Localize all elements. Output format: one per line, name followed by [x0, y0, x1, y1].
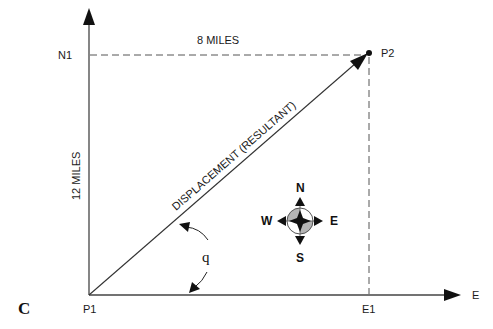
- compass-south-arrow-icon: [295, 236, 305, 245]
- east-axis: E: [89, 289, 479, 301]
- east-axis-label: E: [472, 289, 479, 301]
- compass-rose-icon: N S W E: [261, 181, 338, 265]
- east-axis-arrowhead-icon: [444, 289, 461, 301]
- angle-arrow-upper-icon: [179, 222, 190, 232]
- compass-south-label: S: [296, 251, 304, 265]
- compass-north-arrow-icon: [295, 197, 305, 206]
- angle-theta-symbol: q: [202, 249, 210, 265]
- horizontal-distance-label: 8 MILES: [197, 34, 239, 46]
- displacement-arrowhead-icon: [350, 53, 368, 70]
- p1-label: P1: [83, 303, 96, 315]
- e1-label: E1: [362, 303, 375, 315]
- compass-west-label: W: [261, 214, 273, 228]
- panel-label: C: [18, 299, 30, 318]
- displacement-diagram: E DISPLACEMENT (RESULTANT) 8 MILES 12 MI…: [0, 0, 493, 329]
- displacement-vector: [89, 50, 372, 295]
- p2-point-dot: [366, 50, 372, 56]
- compass-east-label: E: [330, 214, 338, 228]
- displacement-label: DISPLACEMENT (RESULTANT): [169, 99, 297, 213]
- north-axis-arrowhead-icon: [83, 8, 95, 25]
- n1-label: N1: [58, 49, 72, 61]
- north-axis: [83, 8, 95, 295]
- compass-north-label: N: [296, 181, 305, 195]
- p2-label: P2: [381, 47, 394, 59]
- angle-indicator: q: [179, 222, 210, 293]
- compass-west-arrow-icon: [277, 216, 286, 226]
- vertical-distance-label: 12 MILES: [70, 152, 82, 200]
- compass-east-arrow-icon: [314, 216, 323, 226]
